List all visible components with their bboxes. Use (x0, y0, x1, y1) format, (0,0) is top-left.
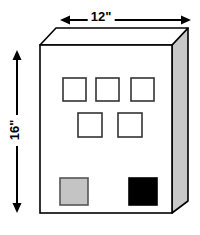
box-top-face (40, 28, 188, 45)
width-dimension-label: 12" (88, 10, 115, 23)
opening-2 (96, 78, 119, 101)
openings-row-1 (63, 78, 154, 101)
box-diagram-svg (0, 0, 200, 235)
opening-1 (63, 78, 86, 101)
opening-3 (131, 78, 154, 101)
opening-black (129, 178, 157, 205)
box-side-face (172, 28, 188, 213)
height-dimension-label: 16" (5, 120, 24, 141)
box-diagram-figure: 12" 16" (0, 0, 200, 235)
opening-5 (118, 113, 142, 137)
width-dimension-arrow (60, 16, 191, 25)
opening-grey (60, 178, 88, 205)
opening-4 (78, 113, 102, 137)
